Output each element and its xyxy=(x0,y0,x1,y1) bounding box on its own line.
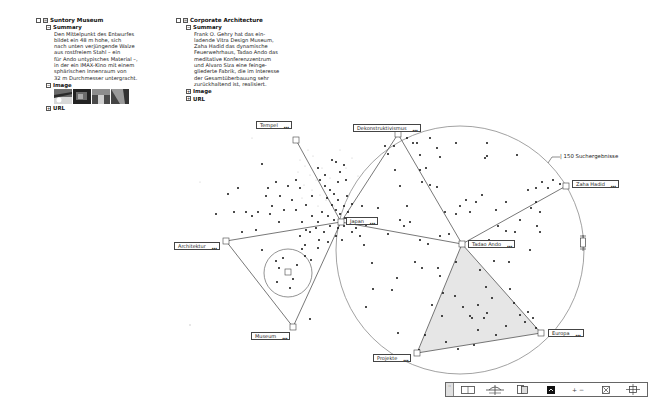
toolbar-grip-handle[interactable]: :: xyxy=(446,383,454,396)
more-icon[interactable]: ... xyxy=(507,242,512,247)
close-box-button[interactable] xyxy=(592,383,620,396)
circle-resize-handle[interactable] xyxy=(580,235,586,251)
node-tag-zaha-hadid[interactable]: Zaha Hadid... xyxy=(572,180,619,188)
node-tag-japan[interactable]: Japan... xyxy=(346,217,378,225)
tag-label: Tempel xyxy=(260,122,278,128)
more-icon[interactable]: ... xyxy=(575,331,580,336)
node-tag-tadao-ando[interactable]: Tadao Ando... xyxy=(468,240,515,248)
tag-label: Projekte xyxy=(377,355,397,361)
hierarchy-view-button[interactable] xyxy=(482,383,510,396)
result-count-text: 150 Suchergebnisse xyxy=(564,153,619,159)
layout-view-button[interactable] xyxy=(454,383,482,396)
more-icon[interactable]: ... xyxy=(403,356,408,361)
node-tag-projekte[interactable]: Projekte... xyxy=(373,354,411,362)
view-toolbar: :: + − xyxy=(445,382,648,397)
concept-graph[interactable] xyxy=(0,0,654,407)
node-tag-architektur[interactable]: Architektur... xyxy=(174,242,220,250)
more-icon[interactable]: ... xyxy=(282,334,287,339)
more-icon[interactable]: ... xyxy=(211,244,216,249)
split-view-button[interactable] xyxy=(509,383,537,396)
selection-triangle xyxy=(417,244,541,353)
more-icon[interactable]: ... xyxy=(370,219,375,224)
node-tag-europa[interactable]: Europa... xyxy=(548,329,584,337)
close-box-icon xyxy=(602,386,610,394)
focus-view-button[interactable] xyxy=(537,383,565,396)
focus-icon xyxy=(547,386,555,394)
split-view-icon xyxy=(517,385,528,394)
faint-dot-cloud xyxy=(189,137,358,325)
tag-label: Architektur xyxy=(178,243,206,249)
cluster-center-marker[interactable] xyxy=(285,269,291,275)
layout-view-icon xyxy=(461,386,475,394)
node-tag-tempel[interactable]: Tempel... xyxy=(256,121,292,129)
tag-label: Japan xyxy=(350,218,364,224)
hierarchy-icon xyxy=(486,385,504,395)
anchor-view-button[interactable] xyxy=(619,383,647,396)
zoom-plus-minus-icon: + − xyxy=(572,386,584,393)
graph-edges xyxy=(226,134,566,327)
tag-label: Europa xyxy=(552,330,570,336)
tag-label: Dekonstruktivismus xyxy=(357,125,407,131)
more-icon[interactable]: ... xyxy=(412,126,417,131)
tag-label: Zaha Hadid xyxy=(576,181,605,187)
tag-label: Museum xyxy=(255,333,276,339)
more-icon[interactable]: ... xyxy=(611,182,616,187)
node-tag-dekonstruktivismus[interactable]: Dekonstruktivismus... xyxy=(353,124,421,132)
node-tag-museum[interactable]: Museum... xyxy=(251,332,290,340)
zoom-plus-minus-button[interactable]: + − xyxy=(564,383,592,396)
tag-label: Tadao Ando xyxy=(472,241,501,247)
more-icon[interactable]: ... xyxy=(283,123,288,128)
result-count-connector xyxy=(548,157,560,163)
result-count-label: | 150 Suchergebnisse xyxy=(560,153,618,159)
anchor-icon xyxy=(626,384,640,395)
